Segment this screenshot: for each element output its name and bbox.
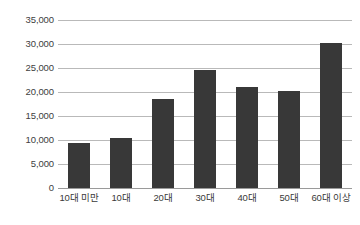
x-axis-labels: 10대 미만10대20대30대40대50대60대 이상: [58, 191, 352, 213]
bar: [194, 70, 216, 188]
y-axis-tick-label: 5,000: [0, 159, 54, 169]
y-axis-tick-label: 25,000: [0, 63, 54, 73]
bar: [110, 138, 132, 188]
bar: [320, 43, 342, 188]
y-axis-labels: 05,00010,00015,00020,00025,00030,00035,0…: [0, 0, 54, 225]
bar: [68, 143, 90, 188]
x-axis-tick-label: 60대 이상: [306, 191, 356, 205]
plot-area: [58, 20, 352, 188]
y-axis-tick-label: 15,000: [0, 111, 54, 121]
bar: [278, 91, 300, 188]
bar-chart: 05,00010,00015,00020,00025,00030,00035,0…: [0, 0, 360, 225]
y-axis-tick-label: 10,000: [0, 135, 54, 145]
bars: [58, 20, 352, 188]
bar: [152, 99, 174, 188]
y-axis-tick-label: 35,000: [0, 15, 54, 25]
y-axis-tick-label: 20,000: [0, 87, 54, 97]
gridline: [58, 188, 352, 189]
y-axis-tick-label: 30,000: [0, 39, 54, 49]
y-axis-tick-label: 0: [0, 183, 54, 193]
bar: [236, 87, 258, 188]
